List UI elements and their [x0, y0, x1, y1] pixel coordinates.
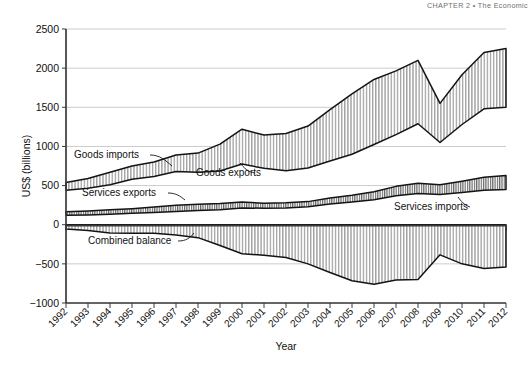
series-bands	[66, 49, 506, 285]
x-axis-labels: 1992199319941995199619971998199920002001…	[46, 305, 510, 329]
chart-figure: CHAPTER 2 • The Economic 250020001500100…	[0, 0, 528, 367]
x-tick-label: 2000	[222, 305, 246, 329]
y-tick-label: 1500	[36, 101, 60, 113]
x-tick-label: 1998	[178, 305, 202, 329]
y-tick-label: 500	[41, 179, 59, 191]
x-axis-title: Year	[275, 340, 297, 352]
annotation-goods-imports: Goods imports	[74, 149, 139, 160]
y-tick-label: 2500	[36, 23, 60, 35]
x-tick-label: 1993	[68, 305, 92, 329]
annotation-combined-balance: Combined balance	[88, 235, 172, 246]
x-tick-label: 2001	[244, 305, 268, 329]
x-tick-label: 2009	[420, 305, 444, 329]
x-tick-label: 1992	[46, 305, 70, 329]
y-tick-label: −1000	[30, 297, 60, 309]
annotation-services-exports: Services exports	[82, 187, 156, 198]
x-tick-label: 2003	[288, 305, 312, 329]
x-tick-label: 2012	[486, 305, 510, 329]
x-tick-label: 1996	[134, 305, 158, 329]
x-tick-label: 2007	[376, 305, 400, 329]
x-tick-label: 2002	[266, 305, 290, 329]
x-tick-label: 1995	[112, 305, 136, 329]
y-axis-title: US$ (billions)	[20, 135, 32, 197]
x-tick-label: 2006	[354, 305, 378, 329]
y-tick-label: −500	[35, 258, 59, 270]
x-tick-label: 2010	[442, 305, 466, 329]
x-tick-label: 1994	[90, 305, 114, 329]
leader-line-services-exports	[168, 193, 185, 200]
y-tick-label: 0	[53, 218, 59, 230]
x-tick-label: 2008	[398, 305, 422, 329]
x-tick-label: 1997	[156, 305, 180, 329]
x-tick-label: 2011	[464, 305, 487, 328]
trade-flows-chart: 25002000150010005000−500−1000 1992199319…	[0, 0, 528, 367]
y-axis-labels: 25002000150010005000−500−1000	[30, 23, 60, 309]
y-tick-label: 2000	[36, 62, 60, 74]
y-tick-label: 1000	[36, 140, 60, 152]
x-tick-label: 1999	[200, 305, 224, 329]
annotation-services-imports: Services imports	[394, 201, 468, 212]
goods-band-fill	[66, 49, 506, 191]
x-tick-label: 2004	[310, 305, 334, 329]
x-tick-label: 2005	[332, 305, 356, 329]
